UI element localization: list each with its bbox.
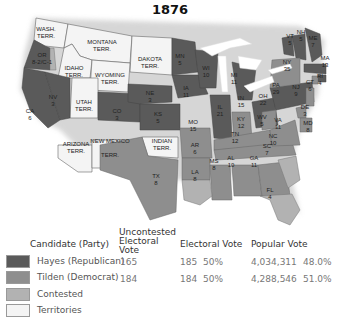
svg-text:22: 22	[260, 100, 267, 106]
svg-text:12: 12	[232, 138, 239, 144]
territories-swatch	[6, 304, 30, 317]
svg-text:TN: TN	[231, 131, 239, 137]
svg-text:IA: IA	[183, 85, 189, 91]
territory-label: NEW MEXICO	[90, 138, 130, 144]
svg-text:11: 11	[183, 92, 190, 98]
svg-text:13: 13	[322, 62, 329, 68]
svg-text:MI: MI	[231, 72, 238, 78]
svg-text:GA: GA	[250, 155, 259, 161]
svg-text:MO: MO	[188, 119, 198, 125]
svg-text:15: 15	[190, 126, 197, 132]
territory-label: WYOMING	[95, 72, 125, 78]
header-popular: Popular Vote	[251, 240, 308, 249]
svg-text:DE: DE	[301, 104, 309, 110]
svg-text:11: 11	[275, 124, 282, 130]
svg-text:ME: ME	[309, 35, 318, 41]
svg-text:TERR.: TERR.	[75, 106, 93, 112]
svg-text:6: 6	[28, 115, 32, 121]
svg-text:NH: NH	[297, 29, 306, 35]
svg-text:NE: NE	[146, 90, 154, 96]
svg-text:10: 10	[228, 162, 235, 168]
territory-label: UTAH	[76, 99, 92, 105]
us-election-map: WASH. TERR. MONTANA TERR. DAKOTA TERR. I…	[0, 0, 340, 230]
svg-text:WI: WI	[202, 65, 210, 71]
svg-text:TERR.: TERR.	[101, 152, 119, 158]
svg-text:TERR.: TERR.	[101, 79, 119, 85]
svg-text:NY: NY	[283, 59, 291, 65]
svg-text:IL: IL	[217, 104, 223, 110]
svg-text:IN: IN	[238, 95, 244, 101]
svg-text:21: 21	[217, 111, 224, 117]
header-electoral: Electoral Vote	[180, 240, 242, 249]
svg-text:AR: AR	[191, 142, 200, 148]
territory-label: IDAHO	[64, 65, 83, 71]
svg-text:OH: OH	[259, 93, 268, 99]
territory-label: INDIAN	[152, 138, 172, 144]
svg-text:MD: MD	[303, 120, 313, 126]
hayes-swatch	[6, 255, 30, 268]
svg-text:11: 11	[251, 162, 258, 168]
svg-text:TERR.: TERR.	[153, 145, 171, 151]
svg-text:AL: AL	[227, 155, 235, 161]
territory-label: ARIZONA	[63, 141, 90, 147]
svg-text:PA: PA	[272, 82, 280, 88]
svg-text:11: 11	[231, 79, 238, 85]
territory-label: DAKOTA	[138, 56, 162, 62]
svg-text:CA: CA	[26, 108, 34, 114]
svg-text:10: 10	[270, 140, 277, 146]
legend-table: Candidate (Party) Uncontested Electoral …	[0, 228, 340, 329]
territory-label: WASH.	[36, 26, 56, 32]
legend-row-tilden: Tilden (Democrat)	[6, 269, 119, 285]
territory-label: MONTANA	[87, 39, 117, 45]
svg-text:TERR.: TERR.	[37, 33, 55, 39]
svg-text:MS: MS	[210, 158, 219, 164]
svg-text:OR: OR	[38, 52, 48, 58]
legend-row-hayes: Hayes (Republican)	[6, 253, 124, 269]
header-uncontested: Uncontested Electoral Vote	[119, 228, 179, 255]
legend-row-contested: Contested	[6, 286, 83, 302]
svg-text:10: 10	[203, 72, 210, 78]
svg-text:35: 35	[284, 66, 291, 72]
svg-text:KY: KY	[237, 116, 245, 122]
svg-text:15: 15	[238, 102, 245, 108]
svg-text:29: 29	[273, 89, 280, 95]
svg-text:NJ: NJ	[292, 84, 299, 90]
svg-text:CT: CT	[306, 79, 314, 85]
svg-text:NV: NV	[49, 94, 57, 100]
legend-row-territories: Territories	[6, 302, 82, 318]
svg-text:LA: LA	[191, 169, 198, 175]
svg-text:FL: FL	[266, 187, 274, 193]
svg-text:TERR.: TERR.	[141, 63, 159, 69]
svg-text:12: 12	[238, 123, 245, 129]
svg-text:NC: NC	[269, 133, 278, 139]
svg-text:VT: VT	[286, 33, 294, 39]
svg-text:RI: RI	[317, 73, 323, 79]
svg-text:WV: WV	[257, 114, 267, 120]
svg-text:CO: CO	[113, 108, 122, 114]
header-candidate: Candidate (Party)	[30, 240, 109, 249]
svg-text:TERR.: TERR.	[65, 72, 83, 78]
svg-text:8-2/C-1: 8-2/C-1	[32, 59, 53, 65]
svg-text:TX: TX	[152, 173, 160, 179]
svg-text:MA: MA	[321, 55, 330, 61]
svg-text:MN: MN	[175, 53, 184, 59]
tilden-swatch	[6, 271, 30, 284]
svg-text:VA: VA	[274, 117, 282, 123]
svg-text:TERR.: TERR.	[67, 148, 85, 154]
contested-swatch	[6, 288, 30, 301]
svg-text:TERR.: TERR.	[93, 46, 111, 52]
svg-text:KS: KS	[154, 111, 162, 117]
